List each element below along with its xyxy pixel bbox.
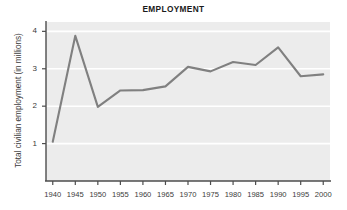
plot-area <box>0 0 347 210</box>
y-tick-label: 3 <box>25 64 37 73</box>
plot-background <box>46 22 330 181</box>
y-tick-label: 2 <box>25 101 37 110</box>
y-tick-label: 1 <box>25 139 37 148</box>
chart-figure: EMPLOYMENT Total civilian employment (in… <box>0 0 347 210</box>
x-tick-label: 2000 <box>310 190 336 199</box>
y-tick-label: 4 <box>25 26 37 35</box>
